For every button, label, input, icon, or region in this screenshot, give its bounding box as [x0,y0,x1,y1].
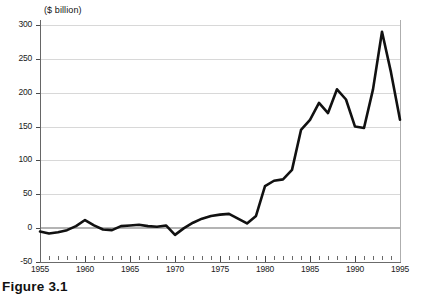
gridline-100 [40,160,401,161]
y-axis-label-150: 150 [18,122,32,131]
x-axis-tick-1979 [256,256,257,260]
x-axis-label-1955: 1955 [31,264,49,274]
x-axis-tick-1978 [247,256,248,260]
y-axis-label-50: 50 [23,189,32,198]
y-axis-line [40,20,41,262]
x-axis-label-1960: 1960 [76,264,94,274]
x-axis-tick-1977 [238,256,239,260]
x-axis-tick-1976 [229,256,230,260]
figure-caption: Figure 3.1 [2,279,68,294]
zero-gridline [40,227,401,229]
x-axis-label-1965: 1965 [121,264,139,274]
y-axis-label-250: 250 [18,54,32,63]
x-axis-tick-1958 [67,256,68,260]
x-axis-tick-1986 [319,256,320,260]
x-axis-tick-1989 [346,256,347,260]
x-axis-tick-1966 [139,256,140,260]
y-axis-label-200: 200 [18,88,32,97]
x-axis-tick-1972 [193,256,194,260]
plot-right-border [400,20,401,262]
x-axis-line [40,262,401,263]
x-axis-label-1975: 1975 [211,264,229,274]
x-axis-tick-1982 [283,256,284,260]
gridline-200 [40,93,401,94]
x-axis-tick-1988 [337,256,338,260]
x-axis-tick-1974 [211,256,212,260]
x-axis-label-1970: 1970 [166,264,184,274]
x-axis-tick-1967 [148,256,149,260]
x-axis-tick-1987 [328,256,329,260]
x-axis-tick-1992 [373,256,374,260]
y-axis-unit-label: ($ billion) [44,5,82,15]
gridline-250 [40,59,401,60]
x-axis-tick-1981 [274,256,275,260]
x-axis-tick-1956 [49,256,50,260]
x-axis-tick-1971 [184,256,185,260]
x-axis-tick-1959 [76,256,77,260]
data-line-flow [40,32,400,235]
x-axis-tick-1991 [364,256,365,260]
x-axis-label-1995: 1995 [391,264,409,274]
x-axis-tick-1962 [103,256,104,260]
x-axis-tick-1983 [292,256,293,260]
x-axis-label-1990: 1990 [346,264,364,274]
y-axis-label-0: 0 [27,223,32,232]
x-axis-tick-1963 [112,256,113,260]
y-axis-label-100: 100 [18,155,32,164]
series-layer [0,0,428,298]
x-axis-tick-1993 [382,256,383,260]
x-axis-tick-1957 [58,256,59,260]
x-axis-tick-1968 [157,256,158,260]
x-axis-label-1980: 1980 [256,264,274,274]
x-axis-tick-1961 [94,256,95,260]
x-axis-tick-1964 [121,256,122,260]
gridline-50 [40,194,401,195]
gridline-300 [40,25,401,26]
figure-container: ($ billion) -50050100150200250300 195519… [0,0,428,298]
x-axis-tick-1969 [166,256,167,260]
x-axis-tick-1984 [301,256,302,260]
x-axis-tick-1973 [202,256,203,260]
x-axis-tick-1994 [391,256,392,260]
gridline-150 [40,127,401,128]
y-axis-label-300: 300 [18,20,32,29]
x-axis-label-1985: 1985 [301,264,319,274]
